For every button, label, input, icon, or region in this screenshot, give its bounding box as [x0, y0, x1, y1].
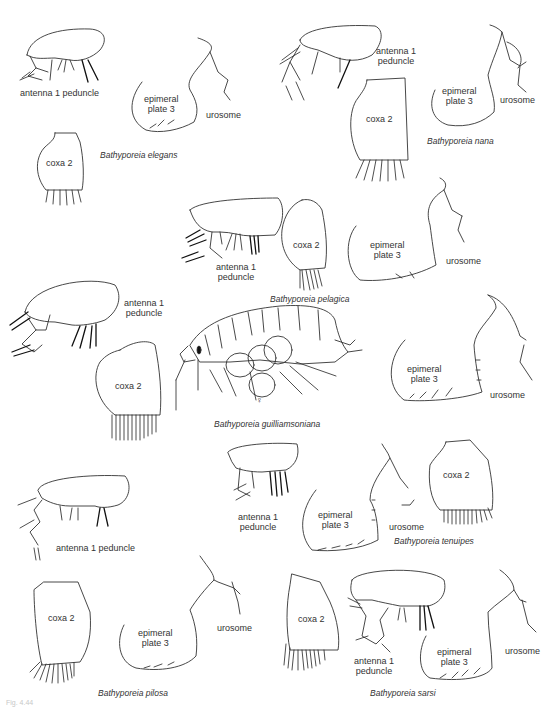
nana-antenna-drawing: [280, 26, 381, 100]
sarsi-antenna-label: antenna 1 peduncle: [354, 656, 394, 676]
figure-caption: Fig. 4.44: [6, 699, 33, 706]
nana-coxa-drawing: [351, 78, 408, 181]
tenuipes-coxa-label: coxa 2: [443, 470, 470, 480]
tenuipes-antenna-drawing: [228, 443, 298, 500]
identification-plate: antenna 1 peduncle epimeral plate 3 uros…: [0, 0, 557, 710]
sarsi-coxa-label: coxa 2: [298, 614, 325, 624]
pilosa-coxa-label: coxa 2: [48, 613, 75, 623]
guilliamsoniana-antenna-drawing: [10, 281, 119, 356]
species-name-pelagica: Bathyporeia pelagica: [270, 294, 349, 304]
nana-urosome-label: urosome: [500, 95, 535, 105]
pilosa-epimeral-drawing: [120, 556, 240, 670]
elegans-urosome-label: urosome: [206, 110, 241, 120]
guilliamsoniana-coxa-label: coxa 2: [115, 381, 142, 391]
elegans-coxa-drawing: [37, 133, 83, 205]
species-name-tenuipes: Bathyporeia tenuipes: [394, 536, 474, 546]
pelagica-coxa-label: coxa 2: [293, 240, 320, 250]
species-name-guilliamsoniana: Bathyporeia guilliamsoniana: [214, 419, 320, 429]
guilliamsoniana-whole-body-drawing: [176, 306, 362, 410]
elegans-epimeral-label: epimeral plate 3: [144, 94, 179, 114]
sarsi-urosome-label: urosome: [505, 646, 540, 656]
pelagica-antenna-label: antenna 1 peduncle: [216, 262, 256, 282]
species-name-nana: Bathyporeia nana: [427, 136, 494, 146]
nana-coxa-label: coxa 2: [366, 114, 393, 124]
pelagica-urosome-label: urosome: [446, 256, 481, 266]
sarsi-antenna-drawing: [348, 570, 445, 652]
tenuipes-coxa-drawing: [429, 440, 492, 524]
guilliamsoniana-antenna-label: antenna 1 peduncle: [124, 298, 164, 318]
tenuipes-urosome-label: urosome: [389, 522, 424, 532]
pelagica-epimeral-label: epimeral plate 3: [370, 240, 405, 260]
tenuipes-epimeral-label: epimeral plate 3: [318, 510, 353, 530]
species-name-sarsi: Bathyporeia sarsi: [370, 688, 436, 698]
guilliamsoniana-urosome-label: urosome: [490, 390, 525, 400]
female-symbol: ♀: [256, 395, 263, 405]
pilosa-urosome-label: urosome: [217, 623, 252, 633]
sarsi-epimeral-label: epimeral plate 3: [437, 647, 472, 667]
tenuipes-antenna-label: antenna 1 peduncle: [238, 512, 278, 532]
pilosa-epimeral-label: epimeral plate 3: [138, 628, 173, 648]
pilosa-antenna-label: antenna 1 peduncle: [56, 543, 135, 553]
species-name-elegans: Bathyporeia elegans: [100, 150, 178, 160]
pelagica-antenna-drawing: [182, 198, 283, 262]
pilosa-coxa-drawing: [30, 582, 91, 683]
elegans-coxa-label: coxa 2: [46, 158, 73, 168]
species-name-pilosa: Bathyporeia pilosa: [98, 688, 168, 698]
line-drawings: [0, 0, 557, 710]
nana-epimeral-label: epimeral plate 3: [442, 86, 477, 106]
nana-antenna-label: antenna 1 peduncle: [376, 46, 416, 66]
nana-epimeral-drawing: [432, 25, 526, 126]
elegans-antenna-label: antenna 1 peduncle: [20, 88, 99, 98]
elegans-antenna-drawing: [20, 29, 104, 82]
guilliamsoniana-epimeral-drawing: [391, 295, 532, 401]
guilliamsoniana-epimeral-label: epimeral plate 3: [407, 364, 442, 384]
tenuipes-epimeral-drawing: [303, 444, 414, 551]
